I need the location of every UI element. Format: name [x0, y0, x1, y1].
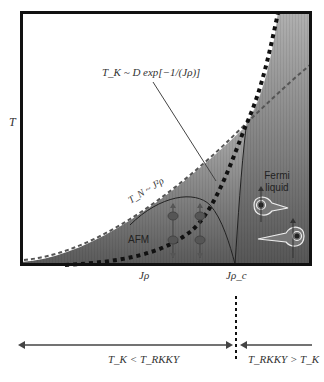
right-regime-arrow: [240, 341, 312, 349]
left-regime-arrow: [18, 341, 233, 349]
x-tick-jrho: Jρ: [139, 269, 149, 281]
formula-pointer: [153, 82, 216, 181]
kondo-formula: T_K ~ D exp[−1/(Jρ)]: [102, 66, 200, 78]
afm-label: AFM: [128, 234, 149, 246]
x-tick-jrho-critical: Jρ_c: [226, 269, 247, 281]
fermi-liquid-label: Fermi liquid: [262, 170, 292, 194]
shaded-region: [22, 13, 310, 264]
fermi-liquid-line1: Fermi: [262, 170, 292, 182]
y-axis-label: T: [9, 115, 16, 130]
left-regime-label: T_K < T_RKKY: [108, 353, 179, 365]
right-regime-label: T_RKKY > T_K: [248, 353, 319, 365]
fermi-liquid-line2: liquid: [262, 182, 292, 194]
